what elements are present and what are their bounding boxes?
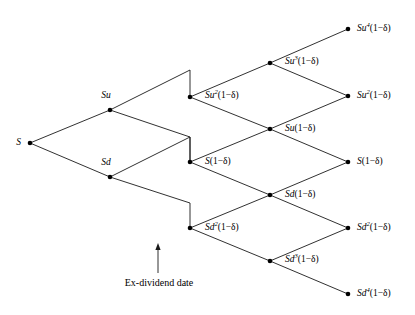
- tree-node-label: Sd2(1−δ): [357, 223, 391, 233]
- tree-node-dot: [108, 108, 113, 113]
- ex-dividend-arrow-head: [155, 243, 160, 250]
- tree-edge: [190, 228, 270, 261]
- tree-node-dot: [108, 175, 113, 180]
- tree-edge: [110, 70, 190, 110]
- tree-node-dot: [268, 61, 273, 66]
- tree-node-dot: [28, 141, 33, 146]
- tree-edge: [270, 261, 348, 294]
- tree-edge: [30, 143, 110, 177]
- tree-node-label: Su2(1−δ): [357, 91, 391, 101]
- tree-node-dot: [268, 259, 273, 264]
- tree-edge: [110, 177, 190, 228]
- tree-node-dot: [268, 193, 273, 198]
- tree-node-label: S(1−δ): [357, 157, 383, 167]
- tree-node-dot: [346, 94, 351, 99]
- tree-node-dot: [346, 27, 351, 32]
- tree-node-label: Sd: [101, 158, 111, 168]
- tree-edge: [110, 137, 190, 177]
- tree-edge: [190, 97, 270, 129]
- tree-node-dot: [346, 292, 351, 297]
- tree-node-label: Sd3(1−δ): [285, 255, 319, 265]
- tree-node-label: Su: [101, 91, 111, 101]
- tree-edge: [110, 110, 190, 162]
- tree-node-label: Su(1−δ): [285, 124, 315, 134]
- tree-edge: [30, 110, 110, 143]
- tree-edge: [270, 195, 348, 228]
- tree-node-dot: [188, 226, 193, 231]
- tree-node-label: Sd2(1−δ): [205, 223, 239, 233]
- tree-node-label: Sd4(1−δ): [357, 289, 391, 299]
- tree-edge: [190, 162, 270, 195]
- tree-node-label: Su2(1−δ): [205, 91, 239, 101]
- annotation-group: [155, 243, 160, 273]
- tree-node-label: Su3(1−δ): [285, 57, 319, 67]
- tree-node-label: S: [16, 138, 21, 148]
- tree-node-label: Su4(1−δ): [357, 24, 391, 34]
- tree-node-dot: [346, 226, 351, 231]
- tree-node-dot: [188, 160, 193, 165]
- tree-node-label: S(1−δ): [205, 157, 231, 167]
- tree-node-label: Sd(1−δ): [285, 190, 315, 200]
- tree-edge: [270, 63, 348, 96]
- tree-edge: [270, 129, 348, 162]
- tree-node-dot: [346, 160, 351, 165]
- tree-node-dot: [268, 127, 273, 132]
- binomial-tree-figure: SSuSdSu2(1−δ)S(1−δ)Sd2(1−δ)Su3(1−δ)Su(1−…: [0, 0, 415, 315]
- ex-dividend-date-label: Ex-dividend date: [125, 278, 194, 288]
- tree-node-dot: [188, 95, 193, 100]
